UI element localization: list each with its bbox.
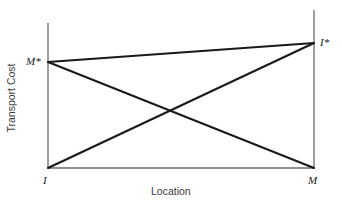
y-axis-label-wrapper: Transport Cost (2, 38, 20, 158)
point-label-i: I (43, 175, 47, 186)
point-label-m: M (308, 175, 317, 186)
series-line-i-to-istar (48, 43, 314, 168)
transport-cost-location-diagram: Transport Cost Location M* I* I M (0, 0, 342, 209)
series-line-mstar-to-istar (48, 43, 314, 62)
y-axis-label: Transport Cost (5, 63, 17, 132)
series-line-mstar-to-m (48, 62, 314, 168)
point-label-i-star: I* (320, 37, 329, 48)
x-axis-label: Location (151, 186, 191, 197)
diagram-canvas (0, 0, 342, 209)
point-label-m-star: M* (26, 56, 41, 67)
